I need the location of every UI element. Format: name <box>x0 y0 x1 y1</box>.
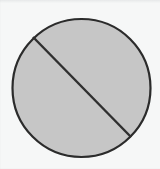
geometry-diagram <box>0 0 160 169</box>
figure-canvas <box>0 0 160 169</box>
